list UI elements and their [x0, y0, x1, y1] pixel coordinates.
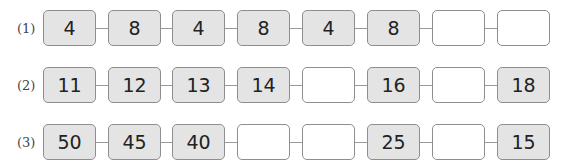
- answer-blank-box[interactable]: [432, 124, 485, 160]
- answer-blank-box[interactable]: [432, 10, 485, 46]
- given-number-box: 18: [497, 67, 550, 103]
- answer-blank-box[interactable]: [237, 124, 290, 160]
- given-number-box: 45: [108, 124, 161, 160]
- given-number-box: 4: [302, 10, 355, 46]
- answer-blank-box[interactable]: [302, 124, 355, 160]
- problem-row-1: (1)484848: [0, 10, 567, 48]
- given-number-box: 12: [108, 67, 161, 103]
- given-number-box: 8: [367, 10, 420, 46]
- problem-number-label: (2): [17, 67, 35, 105]
- given-number-box: 50: [43, 124, 96, 160]
- given-number-box: 15: [497, 124, 550, 160]
- given-number-box: 4: [43, 10, 96, 46]
- problem-number-label: (3): [17, 124, 35, 162]
- given-number-box: 8: [237, 10, 290, 46]
- given-number-box: 8: [108, 10, 161, 46]
- problem-number-label: (1): [17, 10, 35, 48]
- answer-blank-box[interactable]: [497, 10, 550, 46]
- given-number-box: 14: [237, 67, 290, 103]
- answer-blank-box[interactable]: [432, 67, 485, 103]
- given-number-box: 13: [172, 67, 225, 103]
- given-number-box: 11: [43, 67, 96, 103]
- given-number-box: 16: [367, 67, 420, 103]
- given-number-box: 25: [367, 124, 420, 160]
- answer-blank-box[interactable]: [302, 67, 355, 103]
- given-number-box: 4: [172, 10, 225, 46]
- problem-row-2: (2)111213141618: [0, 67, 567, 105]
- given-number-box: 40: [172, 124, 225, 160]
- problem-row-3: (3)5045402515: [0, 124, 567, 162]
